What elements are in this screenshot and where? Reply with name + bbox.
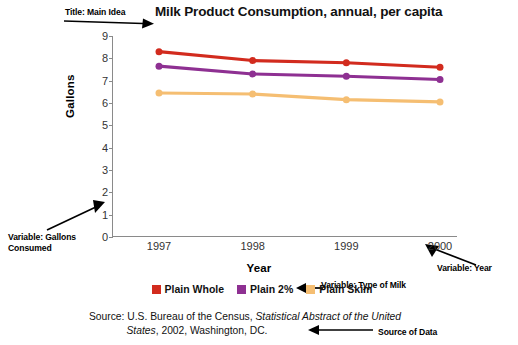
series-line bbox=[159, 93, 440, 102]
y-tick-mark bbox=[109, 237, 113, 238]
data-point-marker bbox=[437, 76, 444, 83]
x-tick-label: 1999 bbox=[334, 240, 358, 252]
legend-item[interactable]: Plain Skim bbox=[306, 283, 372, 295]
data-point-marker bbox=[249, 70, 256, 77]
y-tick-label: 6 bbox=[102, 97, 108, 109]
data-point-marker bbox=[249, 91, 256, 98]
legend-label: Plain Skim bbox=[319, 283, 372, 295]
chart-title: Milk Product Consumption, annual, per ca… bbox=[155, 4, 455, 19]
annotation-title-arrow bbox=[63, 18, 155, 30]
data-point-marker bbox=[343, 59, 350, 66]
legend-swatch bbox=[152, 285, 161, 294]
series-line bbox=[159, 52, 440, 68]
data-point-marker bbox=[437, 98, 444, 105]
source-suffix: , 2002, Washington, DC. bbox=[156, 325, 268, 336]
y-tick-label: 9 bbox=[102, 30, 108, 42]
y-tick-label: 1 bbox=[102, 209, 108, 221]
y-tick-label: 4 bbox=[102, 142, 108, 154]
annotation-variable-gallons: Variable: Gallons Consumed bbox=[8, 232, 113, 253]
data-point-marker bbox=[437, 64, 444, 71]
x-tick-label: 2000 bbox=[428, 240, 452, 252]
x-tick-label: 1998 bbox=[240, 240, 264, 252]
legend: Plain WholePlain 2%Plain Skim bbox=[0, 283, 518, 295]
series-lines bbox=[113, 36, 458, 237]
source-italic-1: Statistical Abstract of the United bbox=[256, 311, 402, 322]
data-point-marker bbox=[249, 57, 256, 64]
y-tick-label: 8 bbox=[102, 52, 108, 64]
data-point-marker bbox=[156, 48, 163, 55]
legend-swatch bbox=[306, 285, 315, 294]
annotation-title-main-idea: Title: Main Idea bbox=[65, 7, 125, 18]
data-point-marker bbox=[343, 73, 350, 80]
legend-item[interactable]: Plain 2% bbox=[237, 283, 293, 295]
source-italic-2: States bbox=[126, 325, 155, 336]
data-point-marker bbox=[156, 89, 163, 96]
series-line bbox=[159, 66, 440, 79]
legend-item[interactable]: Plain Whole bbox=[152, 283, 225, 295]
y-tick-label: 2 bbox=[102, 186, 108, 198]
x-axis-label: Year bbox=[0, 262, 518, 274]
legend-swatch bbox=[237, 285, 246, 294]
source-line-2: States, 2002, Washington, DC. bbox=[0, 324, 490, 338]
y-tick-label: 7 bbox=[102, 75, 108, 87]
legend-label: Plain 2% bbox=[250, 283, 293, 295]
source-line-1: Source: U.S. Bureau of the Census, Stati… bbox=[0, 310, 490, 324]
y-tick-label: 5 bbox=[102, 119, 108, 131]
plot-area: 0123456789 1997199819992000 bbox=[112, 36, 457, 237]
chart-figure: Milk Product Consumption, annual, per ca… bbox=[0, 0, 518, 345]
source-note: Source: U.S. Bureau of the Census, Stati… bbox=[0, 310, 518, 337]
source-prefix: Source: U.S. Bureau of the Census, bbox=[89, 311, 256, 322]
legend-label: Plain Whole bbox=[165, 283, 225, 295]
y-tick-label: 3 bbox=[102, 164, 108, 176]
data-point-marker bbox=[156, 63, 163, 70]
annotation-gallons-arrow bbox=[45, 200, 107, 232]
data-point-marker bbox=[343, 96, 350, 103]
x-tick-label: 1997 bbox=[147, 240, 171, 252]
y-axis-label: Gallons bbox=[64, 74, 76, 118]
y-tick-label: 0 bbox=[102, 231, 108, 243]
